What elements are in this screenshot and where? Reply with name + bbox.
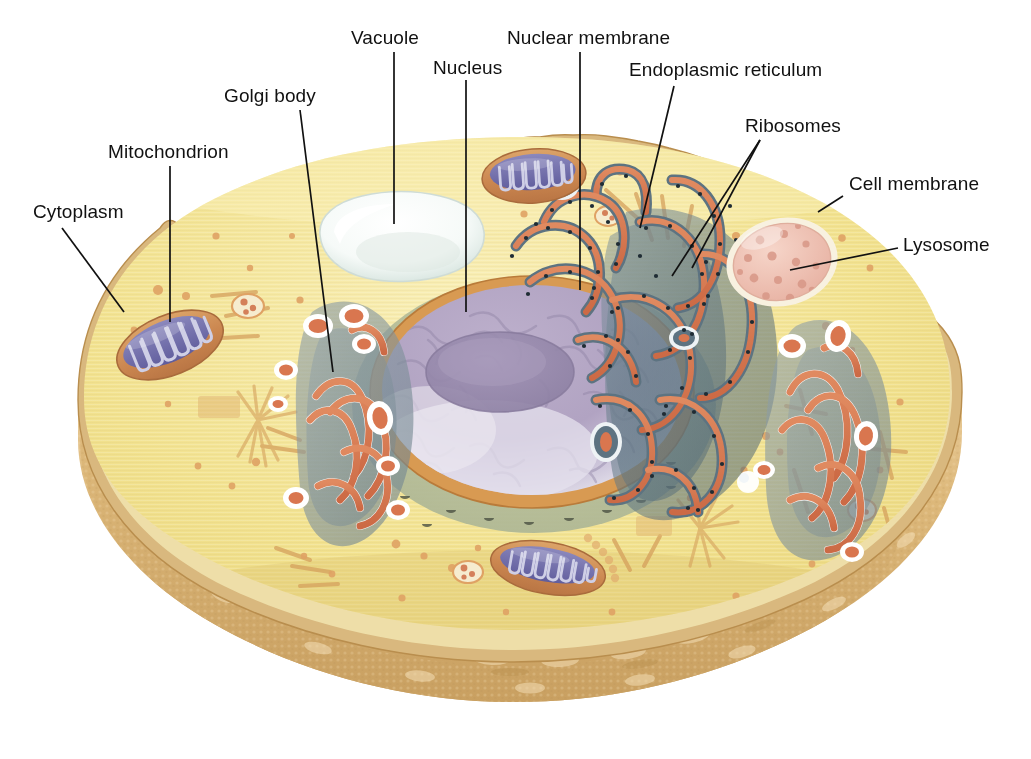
label-golgi-body: Golgi body [224, 86, 316, 105]
leader-cell-membrane [818, 196, 843, 212]
leader-lysosome [790, 248, 898, 270]
label-cytoplasm: Cytoplasm [33, 202, 124, 221]
label-vacuole: Vacuole [351, 28, 419, 47]
leader-golgi-body [300, 110, 333, 372]
label-nuclear-membrane: Nuclear membrane [507, 28, 670, 47]
leader-ribosomes-1 [672, 140, 760, 276]
label-mitochondrion: Mitochondrion [108, 142, 229, 161]
label-ribosomes: Ribosomes [745, 116, 841, 135]
leader-ribosomes-2 [692, 140, 760, 268]
leader-endoplasmic-reticulum [640, 86, 674, 228]
leader-cytoplasm [62, 228, 124, 312]
label-lysosome: Lysosome [903, 235, 990, 254]
leader-lines [0, 0, 1031, 759]
label-endoplasmic-reticulum: Endoplasmic reticulum [629, 60, 822, 79]
label-nucleus: Nucleus [433, 58, 502, 77]
label-cell-membrane: Cell membrane [849, 174, 979, 193]
cell-diagram-stage: Cytoplasm Mitochondrion Golgi body Vacuo… [0, 0, 1031, 759]
